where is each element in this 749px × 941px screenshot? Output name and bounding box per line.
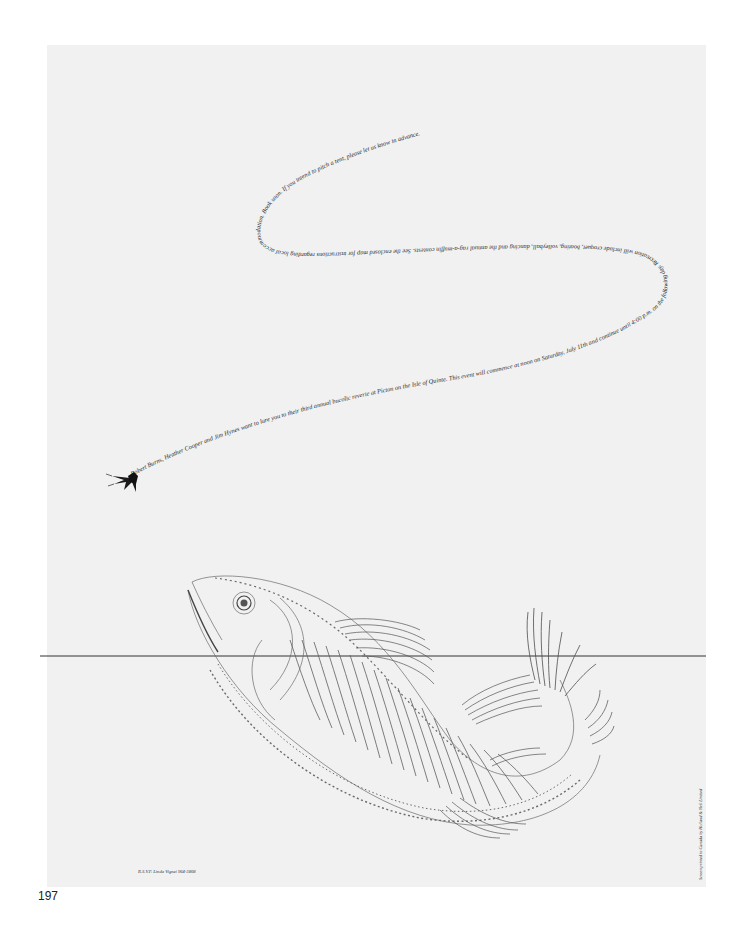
- poster-artwork: Robert Burns, Heather Cooper and Jim Hyn…: [0, 0, 749, 941]
- page-number: 197: [38, 889, 58, 903]
- printer-credit: Screen printed in Canada by Holland & Ne…: [698, 789, 703, 880]
- invitation-text: Robert Burns, Heather Cooper and Jim Hyn…: [128, 129, 668, 477]
- rsvp-text: R.S.V.P. Linda Vignei 964-3808: [138, 869, 196, 874]
- fish-illustration: [188, 576, 614, 838]
- invitation-text-path: Robert Burns, Heather Cooper and Jim Hyn…: [128, 129, 668, 477]
- fishing-fly-icon: [106, 472, 138, 492]
